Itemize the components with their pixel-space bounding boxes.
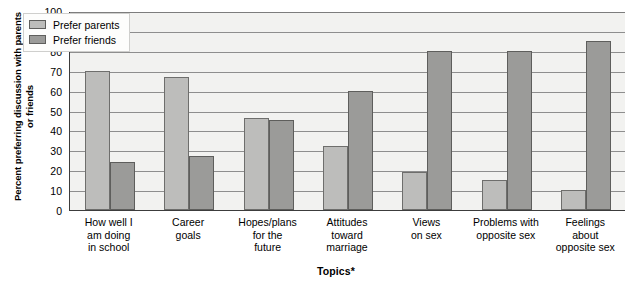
plot-area xyxy=(69,12,625,211)
legend-item-label: Prefer friends xyxy=(53,34,116,46)
y-axis-tick-label: 30 xyxy=(26,146,62,156)
y-axis-tick-label: 70 xyxy=(26,67,62,77)
y-axis-tick-label: 50 xyxy=(26,107,62,117)
bar xyxy=(244,118,269,210)
legend-item-label: Prefer parents xyxy=(53,19,120,31)
x-axis-category-label-line: future xyxy=(228,241,307,254)
bar-chart: Percent preferring discussion with paren… xyxy=(0,0,632,286)
x-axis-category-label-line: opposite sex xyxy=(546,241,625,254)
x-axis-category-label: Hopes/plansfor thefuture xyxy=(228,216,307,254)
x-axis-category-label-line: Problems with xyxy=(466,216,545,229)
y-axis-tick-label: 0 xyxy=(26,206,62,216)
x-axis-category-label: Problems withopposite sex xyxy=(466,216,545,241)
legend-swatch-icon xyxy=(29,20,46,29)
bar xyxy=(348,91,373,210)
legend-swatch-icon xyxy=(29,35,46,44)
bar xyxy=(189,156,214,210)
bar xyxy=(427,51,452,210)
y-axis-tick-label: 10 xyxy=(26,186,62,196)
bar xyxy=(482,180,507,210)
x-axis-category-label-line: am doing xyxy=(69,229,148,242)
x-axis-category-label-line: Views xyxy=(387,216,466,229)
bars-layer xyxy=(70,12,625,210)
x-axis-category-label-line: Hopes/plans xyxy=(228,216,307,229)
x-axis-category-label-line: about xyxy=(546,229,625,242)
bar xyxy=(561,190,586,210)
x-axis-category-label: Feelingsaboutopposite sex xyxy=(546,216,625,254)
x-axis-category-labels: How well Iam doingin schoolCareergoalsHo… xyxy=(69,216,625,268)
bar xyxy=(85,71,110,210)
bar xyxy=(164,77,189,210)
x-axis-category-label: How well Iam doingin school xyxy=(69,216,148,254)
legend-item: Prefer friends xyxy=(29,32,120,47)
bar xyxy=(269,120,294,210)
bar xyxy=(110,162,135,210)
x-axis-category-label-line: opposite sex xyxy=(466,229,545,242)
x-axis-category-label: Viewson sex xyxy=(387,216,466,241)
x-axis-category-label-line: toward xyxy=(307,229,386,242)
bar xyxy=(507,51,532,210)
x-axis-title: Topics* xyxy=(0,265,632,277)
x-axis-category-label-line: Feelings xyxy=(546,216,625,229)
bar xyxy=(323,146,348,210)
bar xyxy=(586,41,611,210)
legend-item: Prefer parents xyxy=(29,17,120,32)
x-axis-category-label-line: on sex xyxy=(387,229,466,242)
y-axis-tick-label: 60 xyxy=(26,87,62,97)
x-axis-category-label: Careergoals xyxy=(148,216,227,241)
legend: Prefer parentsPrefer friends xyxy=(23,13,130,52)
x-axis-category-label-line: for the xyxy=(228,229,307,242)
x-axis-category-label-line: Career xyxy=(148,216,227,229)
y-axis-tick-label: 20 xyxy=(26,166,62,176)
x-axis-category-label-line: How well I xyxy=(69,216,148,229)
x-axis-category-label-line: in school xyxy=(69,241,148,254)
x-axis-category-label-line: marriage xyxy=(307,241,386,254)
y-axis-tick-label: 40 xyxy=(26,126,62,136)
x-axis-category-label: Attitudestowardmarriage xyxy=(307,216,386,254)
x-axis-category-label-line: goals xyxy=(148,229,227,242)
x-axis-category-label-line: Attitudes xyxy=(307,216,386,229)
bar xyxy=(402,172,427,210)
